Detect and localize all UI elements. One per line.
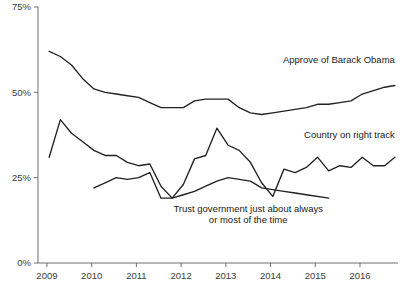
- chart-container: 0%25%50%75%20092010201120122013201420152…: [0, 0, 404, 296]
- y-tick-label: 0%: [17, 257, 31, 268]
- x-tick-label: 2013: [215, 270, 236, 281]
- x-tick-label: 2016: [349, 270, 370, 281]
- x-tick-label: 2009: [36, 270, 57, 281]
- y-tick-label: 25%: [12, 172, 32, 183]
- series-annotation-0: Approve of Barack Obama: [283, 54, 396, 65]
- x-tick-label: 2014: [260, 270, 281, 281]
- x-tick-label: 2015: [305, 270, 326, 281]
- y-tick-label: 75%: [12, 1, 32, 12]
- series-annotation-1: Country on right track: [304, 129, 395, 140]
- line-chart: 0%25%50%75%20092010201120122013201420152…: [0, 0, 404, 296]
- series-annotation-2: or most of the time: [209, 214, 288, 225]
- series-line-2: [94, 173, 329, 199]
- y-tick-label: 50%: [12, 87, 32, 98]
- x-tick-label: 2012: [171, 270, 192, 281]
- series-annotation-2: Trust government just about always: [173, 203, 323, 214]
- x-tick-label: 2011: [126, 270, 146, 281]
- x-tick-label: 2010: [81, 270, 102, 281]
